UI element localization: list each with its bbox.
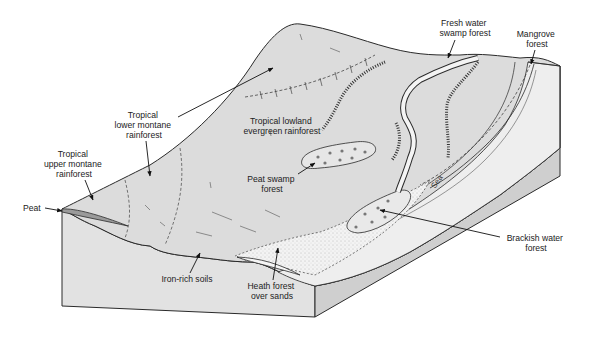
label-lowland-evergreen: Tropical lowland evergreen rainforest (244, 116, 322, 136)
label-lower-montane: Tropical lower montane rainforest (115, 110, 174, 140)
forest-block-diagram: Fresh water swamp forest Mangrove forest… (0, 0, 605, 337)
label-brackish: Brackish water forest (507, 233, 566, 253)
label-mangrove: Mangrove forest (517, 29, 558, 49)
label-fresh-water-swamp: Fresh water swamp forest (439, 18, 491, 38)
arrow-peat (45, 208, 62, 211)
label-heath: Heath forest over sands (247, 281, 296, 301)
label-upper-montane: Tropical upper montane rainforest (44, 149, 104, 179)
label-iron-soils: Iron-rich soils (161, 274, 212, 284)
label-peat: Peat (23, 203, 41, 213)
